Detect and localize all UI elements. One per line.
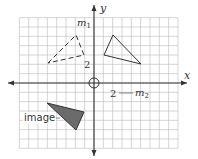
x-axis-label: x xyxy=(184,69,191,82)
y-axis-arrow-up xyxy=(92,5,97,11)
solid-outline-triangle xyxy=(104,35,141,64)
x-axis-arrow-left xyxy=(8,81,14,86)
y-axis-arrow-down xyxy=(92,150,97,156)
coordinate-plane: y x 2 2 m1 m2 image xyxy=(0,0,198,159)
y-tick-label-2: 2 xyxy=(84,59,90,70)
line-m1-label: m1 xyxy=(77,17,91,30)
x-tick-label-2: 2 xyxy=(110,88,116,99)
image-label: image xyxy=(24,112,55,123)
y-axis-label: y xyxy=(99,2,107,15)
line-m2-label: m2 xyxy=(135,87,149,100)
